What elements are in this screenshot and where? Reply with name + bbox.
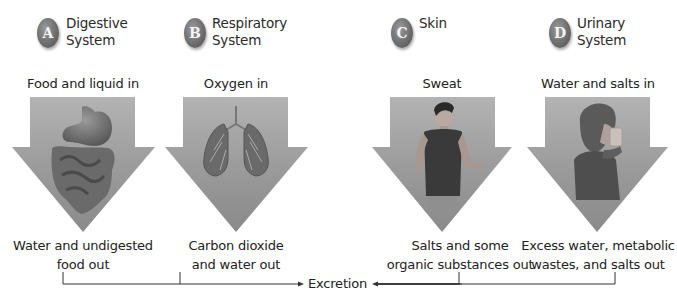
input-label-respiratory: Oxygen in xyxy=(160,76,312,91)
badge-c: C xyxy=(391,18,413,48)
output-label-urinary: Excess water, metabolic wastes, and salt… xyxy=(520,236,676,274)
excretion-connector-right xyxy=(342,272,615,287)
arrow-respiratory xyxy=(165,97,308,232)
system-name-respiratory: Respiratory System xyxy=(212,15,287,49)
system-name-line1: Urinary xyxy=(577,15,626,32)
output-line2: food out xyxy=(0,255,166,274)
system-name-urinary: Urinary System xyxy=(577,15,626,49)
input-label-urinary: Water and salts in xyxy=(520,76,676,91)
tank-top-icon xyxy=(424,129,462,196)
arrow-urinary xyxy=(527,97,668,232)
glass-icon xyxy=(610,128,622,146)
output-line1: Carbon dioxide xyxy=(160,236,312,255)
system-name-skin: Skin xyxy=(419,15,447,32)
output-label-digestive: Water and undigested food out xyxy=(0,236,166,274)
badge-b: B xyxy=(184,18,206,48)
input-label-skin: Sweat xyxy=(372,76,512,91)
woman-body-icon xyxy=(574,151,620,200)
badge-a: A xyxy=(37,18,59,48)
output-line1: Excess water, metabolic xyxy=(520,236,676,255)
output-line2: and water out xyxy=(160,255,312,274)
input-label-digestive: Food and liquid in xyxy=(0,76,166,91)
excretion-label: Excretion xyxy=(308,276,367,291)
arrow-skin xyxy=(372,97,512,232)
system-name-line2: System xyxy=(577,32,626,49)
system-name-line2: System xyxy=(212,32,287,49)
output-line1: Water and undigested xyxy=(0,236,166,255)
system-name-digestive: Digestive System xyxy=(66,15,128,49)
arrow-digestive xyxy=(12,97,155,232)
system-name-line2: System xyxy=(66,32,128,49)
system-name-line1: Respiratory xyxy=(212,15,287,32)
output-label-respiratory: Carbon dioxide and water out xyxy=(160,236,312,274)
badge-d: D xyxy=(549,18,571,48)
system-name-line1: Digestive xyxy=(66,15,128,32)
system-name-line1: Skin xyxy=(419,15,447,32)
output-line2: wastes, and salts out xyxy=(520,255,676,274)
